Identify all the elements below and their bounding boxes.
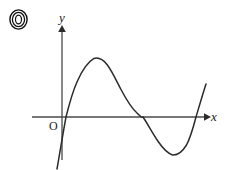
x-axis-label: x <box>211 110 217 123</box>
origin-label: O <box>49 120 58 132</box>
coordinate-plot <box>0 0 227 170</box>
math-figure: y x O <box>0 0 227 170</box>
marker-zero-glyph <box>16 15 22 24</box>
y-axis-label: y <box>59 11 65 24</box>
x-axis-arrowhead <box>204 113 211 121</box>
circled-zero-outline <box>9 9 28 30</box>
y-axis-arrowhead <box>58 25 66 32</box>
circled-zero-marker-icon <box>9 9 28 30</box>
cubic-curve <box>57 58 206 169</box>
